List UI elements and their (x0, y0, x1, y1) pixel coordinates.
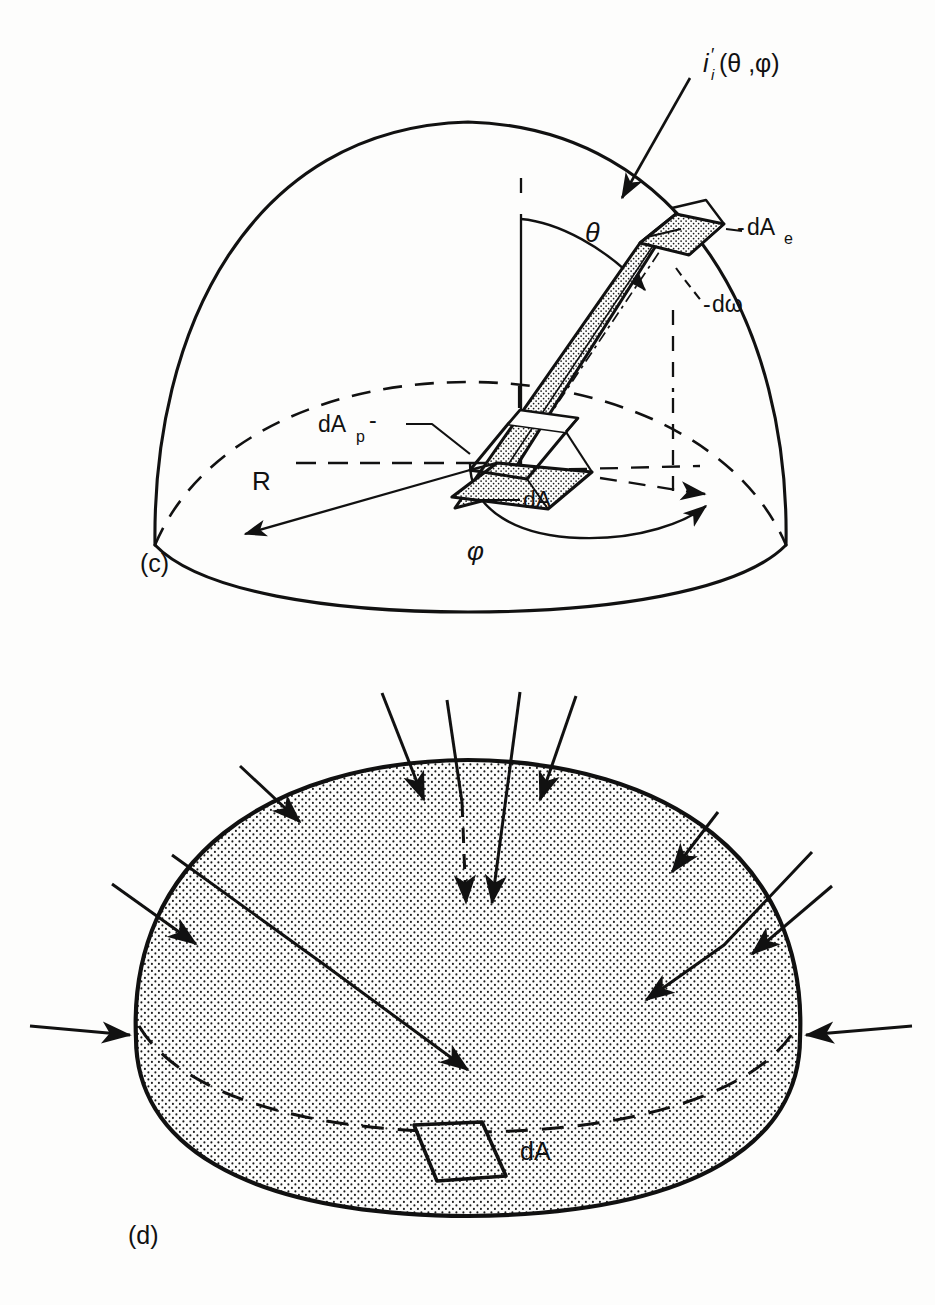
panel-c-caption: (c) (140, 549, 169, 577)
dA-label-c: dA (523, 487, 552, 513)
dAp-base: dA (318, 411, 347, 437)
radius-label-R: R (252, 466, 271, 496)
dAe-subscript: e (784, 230, 793, 247)
theta-label: θ (585, 218, 600, 248)
domega-leader-dash: - (703, 291, 711, 317)
dAe-leader-dash: - (737, 214, 745, 240)
dAe-base: dA (747, 214, 776, 240)
radiation-geometry-figure: i ′ i (θ ,φ) θ φ R - dω - dA e dA p - (0, 0, 935, 1305)
incident-intensity-args: (θ ,φ) (719, 49, 780, 77)
dA-label-d: dA (520, 1137, 551, 1165)
domega-label: dω (712, 291, 743, 317)
panel-d-caption: (d) (128, 1221, 159, 1249)
dAp-subscript: p (356, 428, 365, 445)
phi-label: φ (467, 536, 484, 566)
dAp-leader-dash: - (369, 407, 377, 433)
domega-label-group: - dω (703, 291, 743, 317)
